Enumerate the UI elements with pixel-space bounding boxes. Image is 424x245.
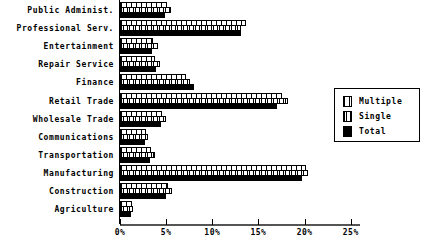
plot-area <box>120 0 360 218</box>
bar-multiple <box>120 147 151 153</box>
bar-group <box>120 201 360 219</box>
bar-group <box>120 165 360 183</box>
legend-item-total: Total <box>343 124 419 139</box>
legend-item-multiple: Multiple <box>343 94 419 109</box>
bar-group <box>120 111 360 129</box>
axis-tick <box>120 219 121 225</box>
bar-group <box>120 38 360 56</box>
category-label: Manufacturing <box>44 168 114 179</box>
category-axis-labels: Public Administ.Professional Serv.Entert… <box>0 0 116 218</box>
bar-multiple <box>120 2 167 8</box>
category-label: Repair Service <box>38 60 114 71</box>
bar-multiple <box>120 20 246 26</box>
bar-group <box>120 20 360 38</box>
bar-multiple <box>120 56 155 62</box>
axis-tick-label: 0% <box>115 228 126 238</box>
bar-multiple <box>120 111 162 117</box>
legend-swatch-multiple-icon <box>343 96 352 107</box>
axis-tick-label: 15% <box>250 228 266 238</box>
bar-group <box>120 183 360 201</box>
bar-group <box>120 74 360 92</box>
axis-tick-label: 10% <box>204 228 220 238</box>
legend-label-total: Total <box>359 127 386 137</box>
axis-tick-label: 5% <box>161 228 172 238</box>
bar-group <box>120 129 360 147</box>
bar-group <box>120 147 360 165</box>
axis-tick <box>212 219 213 225</box>
bar-group <box>120 2 360 20</box>
chart-legend: Multiple Single Total <box>334 88 420 142</box>
axis-tick-label: 25% <box>343 228 359 238</box>
axis-tick <box>258 219 259 225</box>
bar-group <box>120 93 360 111</box>
axis-tick <box>351 219 352 225</box>
category-label: Transportation <box>38 150 114 161</box>
legend-label-multiple: Multiple <box>359 97 402 107</box>
category-label: Professional Serv. <box>17 24 115 35</box>
axis-tick <box>305 219 306 225</box>
axis-tick-label: 20% <box>297 228 313 238</box>
category-label: Retail Trade <box>49 96 114 107</box>
category-label: Communications <box>38 132 114 143</box>
axis-tick <box>166 219 167 225</box>
bar-group <box>120 56 360 74</box>
bar-multiple <box>120 201 132 207</box>
legend-label-single: Single <box>359 112 392 122</box>
legend-item-single: Single <box>343 109 419 124</box>
category-label: Public Administ. <box>27 6 114 17</box>
bar-multiple <box>120 129 146 135</box>
bar-chart: Public Administ.Professional Serv.Entert… <box>0 0 424 245</box>
category-label: Agriculture <box>54 205 114 216</box>
legend-swatch-total-icon <box>343 126 352 137</box>
legend-swatch-single-icon <box>343 111 352 122</box>
bar-multiple <box>120 93 282 99</box>
bar-multiple <box>120 38 153 44</box>
category-label: Wholesale Trade <box>33 114 114 125</box>
bar-multiple <box>120 74 186 80</box>
category-axis-line <box>120 224 360 226</box>
bar-multiple <box>120 165 306 171</box>
category-label: Construction <box>49 187 114 198</box>
bar-multiple <box>120 183 168 189</box>
category-label: Finance <box>76 78 114 89</box>
category-label: Entertainment <box>44 42 114 53</box>
